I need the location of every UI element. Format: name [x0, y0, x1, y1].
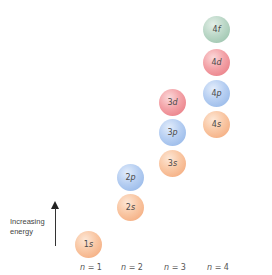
orbital-4p: 4p	[203, 80, 230, 107]
orbital-4f: 4f	[203, 16, 230, 43]
orbital-letter: d	[217, 58, 222, 67]
shell-label-n1: n = 1	[80, 263, 102, 272]
orbital-1s: 1s	[75, 231, 102, 258]
energy-label-line2: energy	[10, 227, 45, 237]
energy-axis-label: Increasing energy	[10, 217, 45, 237]
orbital-letter: p	[131, 173, 136, 182]
orbital-3s: 3s	[159, 150, 186, 177]
orbital-energy-diagram: Increasing energy 1s 2s 2p 3s 3p 3d 4s 4…	[0, 0, 272, 275]
orbital-4d: 4d	[203, 49, 230, 76]
orbital-3p: 3p	[159, 119, 186, 146]
shell-value: = 4	[215, 263, 229, 272]
orbital-letter: s	[173, 159, 177, 168]
orbital-4s: 4s	[203, 111, 230, 138]
orbital-letter: d	[173, 98, 178, 107]
orbital-letter: s	[89, 240, 93, 249]
energy-arrow-shaft	[55, 208, 56, 246]
orbital-3d: 3d	[159, 89, 186, 116]
energy-label-line1: Increasing	[10, 217, 45, 227]
shell-label-n2: n = 2	[121, 263, 143, 272]
shell-symbol: n	[207, 263, 212, 272]
orbital-2s: 2s	[117, 194, 144, 221]
orbital-letter: s	[131, 203, 135, 212]
shell-value: = 3	[172, 263, 186, 272]
shell-value: = 1	[88, 263, 102, 272]
orbital-letter: f	[218, 25, 221, 34]
shell-label-n3: n = 3	[164, 263, 186, 272]
shell-label-n4: n = 4	[207, 263, 229, 272]
orbital-letter: p	[217, 89, 222, 98]
orbital-letter: s	[217, 120, 221, 129]
shell-symbol: n	[80, 263, 85, 272]
shell-value: = 2	[129, 263, 143, 272]
shell-symbol: n	[164, 263, 169, 272]
shell-symbol: n	[121, 263, 126, 272]
orbital-letter: p	[173, 128, 178, 137]
orbital-2p: 2p	[117, 164, 144, 191]
